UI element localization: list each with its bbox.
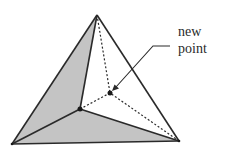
inner-point bbox=[78, 107, 83, 112]
diagram-canvas: new point bbox=[0, 0, 235, 150]
dashed-edge-apex bbox=[97, 15, 110, 93]
vertex-bottom-right bbox=[178, 140, 181, 143]
leader-line bbox=[116, 46, 170, 87]
vertex-bottom-left bbox=[11, 143, 14, 146]
label-line-2: point bbox=[178, 40, 207, 57]
label-line-1: new bbox=[178, 23, 207, 40]
new-point-label: new point bbox=[178, 23, 207, 57]
dashed-edge-inner bbox=[80, 93, 110, 109]
new-point bbox=[108, 91, 113, 96]
